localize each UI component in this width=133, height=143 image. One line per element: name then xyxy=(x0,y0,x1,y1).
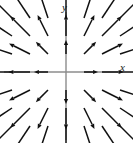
x-axis-label: x xyxy=(120,62,125,73)
y-axis-label: y xyxy=(62,2,67,13)
vector-field-figure: y x xyxy=(0,0,133,143)
axis-lines xyxy=(4,12,122,140)
vector-field-plot xyxy=(0,0,133,143)
